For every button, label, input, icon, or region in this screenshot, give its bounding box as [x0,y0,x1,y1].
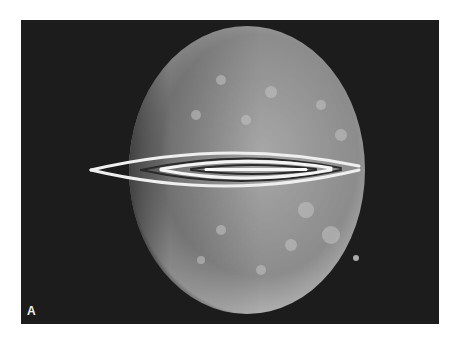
figure-panel: A [21,20,439,324]
sphere-fringe-image [21,20,439,324]
panel-label: A [27,304,36,318]
